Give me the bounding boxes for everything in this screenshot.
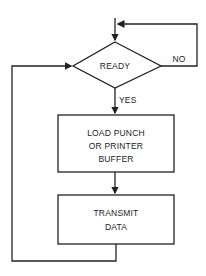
process1-line2: OR PRINTER [89, 141, 143, 151]
decision-label: READY [100, 61, 130, 71]
yes-label: YES [119, 95, 137, 105]
process1-line1: LOAD PUNCH [87, 128, 145, 138]
process2-line1: TRANSMIT [93, 208, 138, 218]
no-label: NO [172, 54, 185, 64]
transmit-data-box [58, 195, 174, 244]
process2-line2: DATA [105, 222, 127, 232]
process1-line3: BUFFER [98, 154, 133, 164]
flowchart-svg: READY NO YES LOAD PUNCH OR PRINTER BUFFE… [0, 0, 206, 276]
flowchart-canvas: READY NO YES LOAD PUNCH OR PRINTER BUFFE… [0, 0, 206, 276]
